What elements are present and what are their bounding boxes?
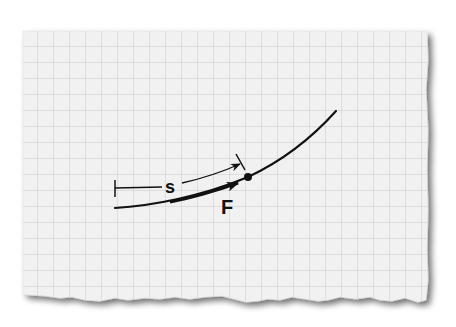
displacement-label: s <box>165 177 175 197</box>
diagram-svg: s F <box>0 0 456 327</box>
graph-paper-sheet <box>23 31 428 302</box>
force-label: F <box>221 196 233 218</box>
particle-point <box>244 173 252 181</box>
diagram-canvas: s F <box>0 0 456 327</box>
paper-shape <box>23 31 428 302</box>
